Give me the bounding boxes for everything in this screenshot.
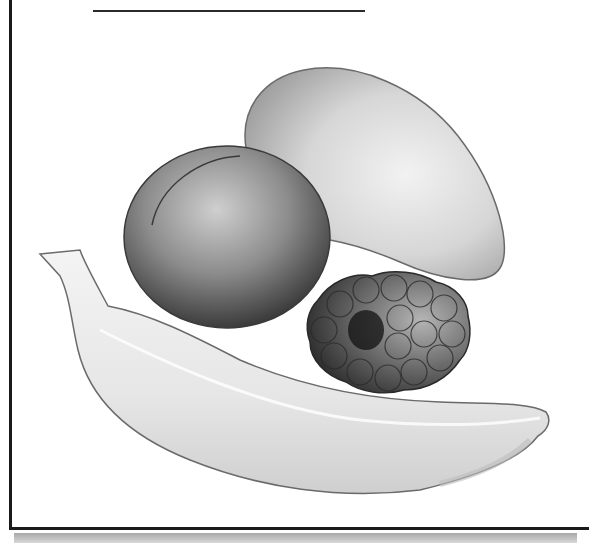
peach-icon	[124, 146, 330, 328]
raspberry-icon	[307, 272, 470, 393]
